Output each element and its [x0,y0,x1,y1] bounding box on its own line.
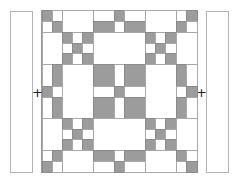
right-side-border [206,11,229,173]
quilt-patch-light [42,32,63,65]
quilt-patch-light [145,64,177,119]
quilt-patch-light [42,118,63,151]
quilt-patch-light [145,150,177,173]
quilt-patch-dark [93,97,115,119]
quilt-patch-light [176,32,198,65]
quilt-patch-light [62,150,94,173]
quilt-patch-dark [124,97,146,119]
quilt-patch-light [145,10,177,33]
quilt-patch-light [93,118,146,151]
quilt-patch-dark [186,161,198,173]
quilt-patch-light [124,161,146,173]
quilt-patch-light [176,118,198,151]
quilt-patch-dark [124,64,146,87]
left-side-border [10,11,33,173]
left-join-plus-icon: + [32,86,42,99]
quilt-patch-light [93,161,115,173]
quilt-patch-light [93,32,146,65]
quilt-patch-light [186,64,198,87]
quilt-patch-light [62,10,94,33]
quilt-patch-light [62,64,94,119]
quilt-patch-dark [93,64,115,87]
quilt-patch-light [186,97,198,119]
